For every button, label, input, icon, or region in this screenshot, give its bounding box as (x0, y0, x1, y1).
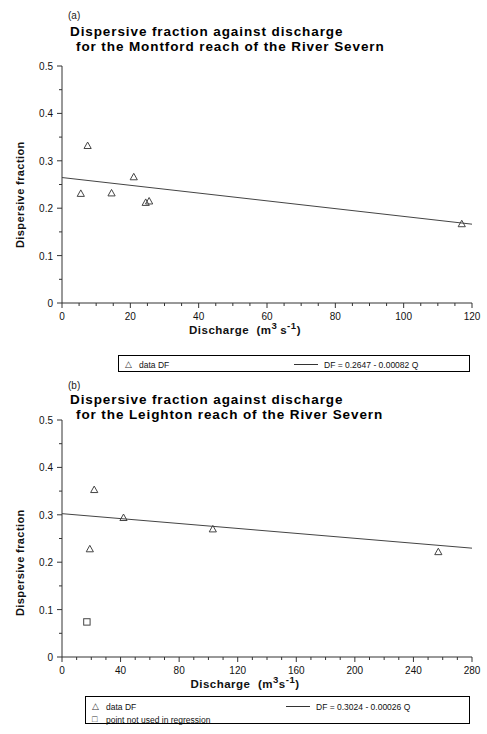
svg-text:0.1: 0.1 (39, 605, 53, 616)
svg-text:0.5: 0.5 (39, 415, 53, 426)
svg-text:0.4: 0.4 (39, 462, 53, 473)
panel-a-plot-area: 00.10.20.30.40.5020406080100120 (0, 0, 487, 378)
svg-text:80: 80 (330, 311, 342, 322)
svg-text:0.2: 0.2 (39, 203, 53, 214)
svg-text:0: 0 (47, 298, 53, 309)
legend-line-icon (286, 706, 310, 707)
svg-text:120: 120 (464, 311, 481, 322)
svg-text:0.1: 0.1 (39, 251, 53, 262)
svg-text:20: 20 (125, 311, 137, 322)
panel-b: (b) Dispersive fraction against discharg… (0, 378, 487, 734)
legend-triangle-icon: △ (125, 358, 139, 371)
svg-text:0.3: 0.3 (39, 510, 53, 521)
svg-text:0.2: 0.2 (39, 557, 53, 568)
svg-text:280: 280 (464, 665, 481, 676)
panel-b-plot-area: 00.10.20.30.40.504080120160200240280 (0, 378, 487, 734)
svg-text:0: 0 (59, 665, 65, 676)
panel-a-legend-fit-label: DF = 0.2647 - 0.00082 Q (324, 360, 418, 370)
svg-text:40: 40 (193, 311, 205, 322)
svg-text:0.3: 0.3 (39, 156, 53, 167)
svg-text:0: 0 (59, 311, 65, 322)
svg-text:240: 240 (405, 665, 422, 676)
legend-square-icon: □ (92, 713, 106, 726)
panel-a-legend-data-label: data DF (139, 360, 169, 370)
svg-text:100: 100 (395, 311, 412, 322)
panel-a-legend: △ data DF DF = 0.2647 - 0.00082 Q (118, 355, 470, 372)
svg-text:60: 60 (261, 311, 273, 322)
panel-b-legend-data-label: data DF (106, 702, 136, 712)
legend-triangle-icon: △ (92, 700, 106, 713)
svg-text:120: 120 (229, 665, 246, 676)
svg-text:160: 160 (288, 665, 305, 676)
svg-text:40: 40 (115, 665, 127, 676)
svg-text:0.4: 0.4 (39, 108, 53, 119)
panel-b-legend: △ data DF □ point not used in regression… (85, 696, 470, 724)
svg-text:0: 0 (47, 652, 53, 663)
panel-a: (a) Dispersive fraction against discharg… (0, 0, 487, 378)
svg-text:200: 200 (347, 665, 364, 676)
svg-text:80: 80 (174, 665, 186, 676)
panel-b-legend-fit-label: DF = 0.3024 - 0.00026 Q (316, 702, 410, 712)
panel-b-legend-excluded-label: point not used in regression (106, 715, 210, 725)
legend-line-icon (294, 364, 318, 365)
svg-text:0.5: 0.5 (39, 61, 53, 72)
